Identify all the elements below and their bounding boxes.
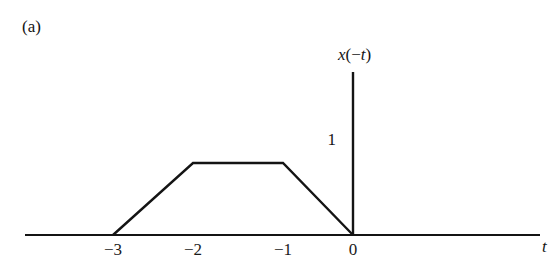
- x-axis-label: t: [542, 238, 547, 255]
- amplitude-label-one: 1: [328, 131, 339, 148]
- signal-plot-figure: (a) x(−t) 1 t −3 −2 −1 0: [0, 0, 557, 266]
- x-tick-label-minus2: −2: [184, 240, 202, 260]
- plot-canvas: [0, 0, 557, 266]
- y-axis-label-function: x: [338, 45, 346, 64]
- panel-label: (a): [22, 18, 41, 35]
- y-axis-label-close-paren: ): [366, 45, 372, 64]
- x-tick-label-zero: 0: [349, 240, 358, 260]
- y-axis-label-minus: −: [351, 45, 361, 64]
- x-tick-label-minus1: −1: [274, 240, 292, 260]
- y-axis-label: x(−t): [338, 46, 371, 63]
- x-tick-label-minus3: −3: [104, 240, 122, 260]
- waveform-trapezoid: [113, 163, 353, 235]
